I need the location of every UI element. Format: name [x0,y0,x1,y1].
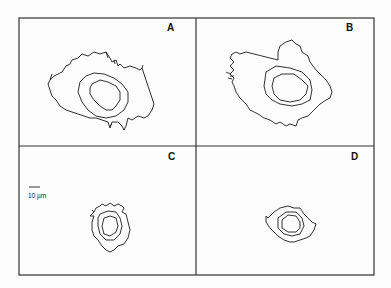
panel-a: A [48,22,174,130]
spike-a-1 [50,52,143,126]
inner-contour-c [102,216,118,236]
outer-contour-a [48,52,154,130]
spike-c [92,210,94,212]
panel-grid [19,18,374,275]
panel-b: B [226,22,353,126]
inner-contour-b [272,74,308,102]
figure-four-panel-contours: A B C 10 µm D [0,0,391,288]
middle-contour-b [264,66,312,106]
panel-label-a: A [167,22,174,33]
middle-contour-a [78,73,128,118]
panel-label-b: B [346,22,353,33]
panel-label-d: D [351,151,358,162]
outer-contour-b [230,40,332,126]
outer-contour-c [90,203,130,252]
outer-contour-d [266,206,316,242]
panel-c: C 10 µm [28,151,175,252]
inner-contour-d [282,215,300,232]
panel-label-c: C [168,151,175,162]
panel-d: D [266,151,358,242]
spikes-b [226,72,234,79]
scale-bar-label: 10 µm [28,192,46,200]
inner-contour-a [90,80,120,110]
